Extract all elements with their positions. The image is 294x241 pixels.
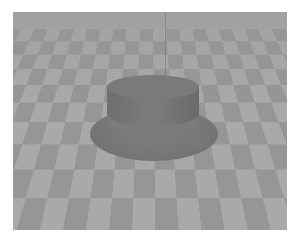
hat-crown-top [107, 75, 199, 99]
hat-object [13, 12, 287, 230]
render-viewport [13, 12, 287, 230]
